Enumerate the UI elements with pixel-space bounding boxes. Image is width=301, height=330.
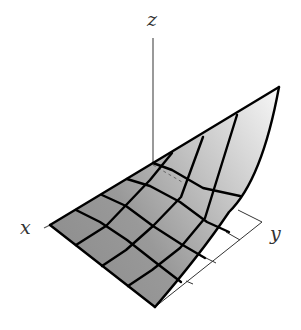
x-axis-label: x xyxy=(20,218,31,237)
surface-patch xyxy=(50,87,279,307)
z-axis-label: z xyxy=(147,10,157,29)
y-axis-label: y xyxy=(270,224,281,243)
surface-plot-canvas xyxy=(0,0,301,330)
surface-plot-figure: z x y xyxy=(0,0,301,330)
